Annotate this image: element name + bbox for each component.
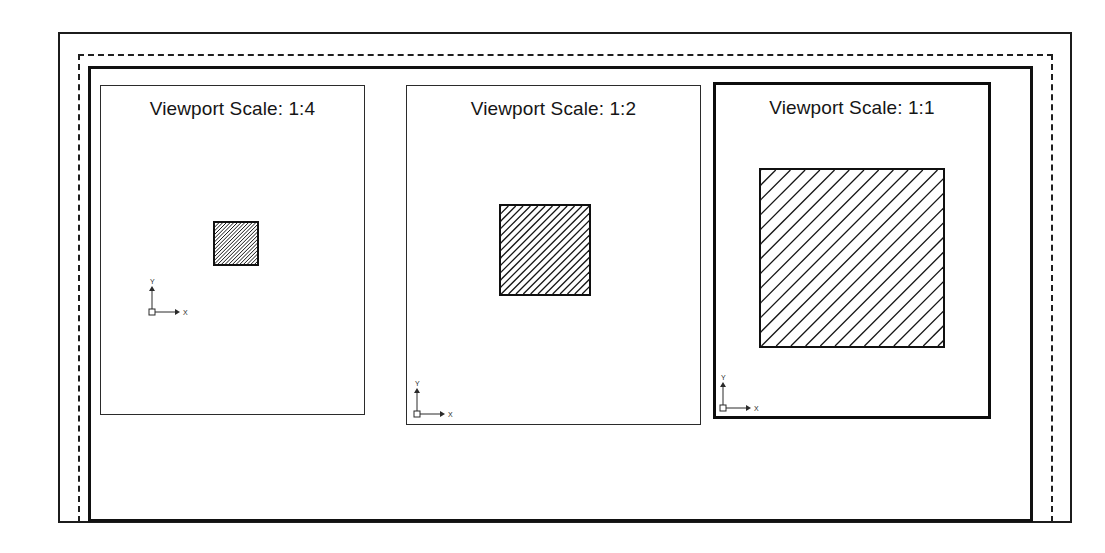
- svg-text:X: X: [754, 405, 759, 412]
- hatch-fill: [501, 206, 589, 294]
- viewport-3-hatched-square[interactable]: [759, 168, 945, 348]
- svg-text:Y: Y: [150, 278, 155, 285]
- viewport-2-hatched-square[interactable]: [499, 204, 591, 296]
- svg-text:Y: Y: [721, 374, 726, 381]
- hatch-fill: [761, 170, 943, 346]
- ucs-icon: XY: [148, 270, 200, 318]
- svg-text:X: X: [183, 309, 188, 316]
- ucs-icon: XY: [719, 366, 771, 414]
- viewport-1[interactable]: Viewport Scale: 1:4XY: [100, 85, 365, 415]
- viewport-1-ucs-icon: XY: [148, 270, 200, 322]
- hatch-fill: [215, 223, 257, 264]
- viewport-3-ucs-icon: XY: [719, 366, 771, 418]
- viewport-2[interactable]: Viewport Scale: 1:2XY: [406, 85, 701, 425]
- drawing-canvas: Viewport Scale: 1:4XYViewport Scale: 1:2…: [0, 0, 1105, 553]
- viewport-2-label: Viewport Scale: 1:2: [407, 98, 700, 120]
- ucs-icon: XY: [413, 372, 465, 420]
- viewport-3-label: Viewport Scale: 1:1: [716, 97, 988, 119]
- svg-text:Y: Y: [415, 380, 420, 387]
- viewport-1-label: Viewport Scale: 1:4: [101, 98, 364, 120]
- svg-text:X: X: [448, 411, 453, 418]
- viewport-1-hatched-square[interactable]: [213, 221, 259, 266]
- viewport-3[interactable]: Viewport Scale: 1:1XY: [713, 82, 991, 419]
- viewport-2-ucs-icon: XY: [413, 372, 465, 424]
